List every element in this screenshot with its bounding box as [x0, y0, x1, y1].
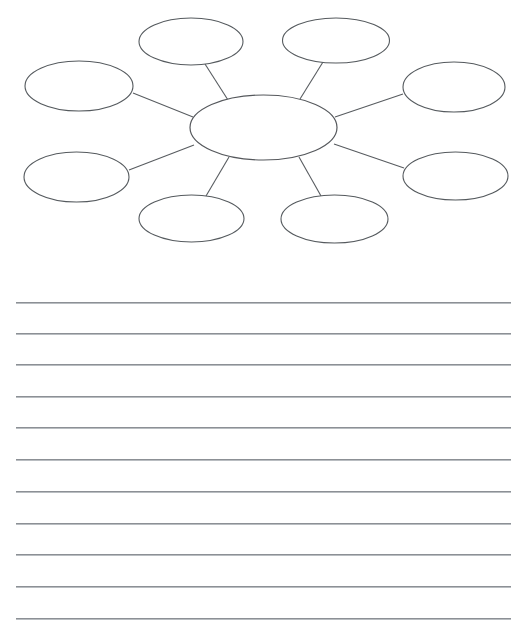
spoke-to-bottom-right [299, 157, 321, 196]
rule-line-4[interactable] [16, 396, 511, 397]
rule-line-11[interactable] [16, 618, 511, 619]
oval-bottom-right[interactable] [281, 195, 388, 243]
oval-right-lower[interactable] [403, 152, 508, 200]
center-oval[interactable] [190, 95, 337, 160]
rule-line-5[interactable] [16, 427, 511, 428]
worksheet-page [0, 0, 528, 643]
rule-line-3[interactable] [16, 364, 511, 365]
rule-line-8[interactable] [16, 523, 511, 524]
rule-line-7[interactable] [16, 491, 511, 492]
oval-top-left[interactable] [139, 18, 243, 65]
oval-left-upper[interactable] [25, 61, 133, 111]
rule-line-1[interactable] [16, 302, 511, 303]
center-oval-group [190, 95, 337, 160]
spoke-to-top-right [300, 62, 323, 99]
rule-line-10[interactable] [16, 586, 511, 587]
spoke-to-top-left [205, 64, 228, 100]
oval-right-upper[interactable] [403, 62, 505, 112]
spoke-to-right-lower [334, 144, 404, 168]
concept-web-diagram [0, 0, 528, 280]
spoke-to-left-lower [129, 145, 194, 170]
oval-bottom-left[interactable] [139, 195, 244, 242]
lined-writing-area [0, 280, 528, 643]
oval-left-lower[interactable] [24, 152, 129, 202]
spoke-to-left-upper [133, 93, 193, 117]
rule-line-6[interactable] [16, 459, 511, 460]
spoke-to-right-upper [335, 94, 403, 117]
rule-line-9[interactable] [16, 554, 511, 555]
spoke-to-bottom-left [206, 157, 229, 196]
oval-top-right[interactable] [283, 18, 390, 63]
rule-line-2[interactable] [16, 333, 511, 334]
